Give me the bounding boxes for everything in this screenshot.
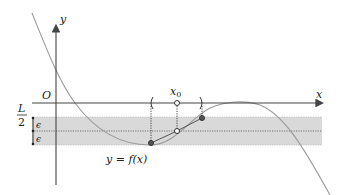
y-axis-label: y bbox=[59, 13, 67, 26]
center-open-point bbox=[175, 129, 180, 134]
x0-axis-open-point bbox=[175, 101, 180, 106]
x0-label: x0 bbox=[170, 85, 181, 99]
limit-diagram: y x O x0 L 2 ϵ ϵ y = f(x) bbox=[0, 0, 340, 195]
L-numerator: L bbox=[17, 102, 25, 115]
function-curve bbox=[32, 13, 330, 195]
L-denominator: 2 bbox=[18, 116, 25, 129]
right-filled-point bbox=[200, 116, 205, 121]
epsilon-tick-mid bbox=[32, 130, 35, 133]
epsilon-tick-bottom bbox=[32, 143, 35, 146]
origin-label: O bbox=[42, 89, 51, 102]
epsilon-bottom-label: ϵ bbox=[36, 134, 41, 144]
epsilon-top-label: ϵ bbox=[36, 120, 41, 130]
epsilon-tick-top bbox=[32, 117, 35, 120]
curve-label: y = f(x) bbox=[105, 153, 147, 166]
x-axis-label: x bbox=[316, 88, 323, 101]
left-filled-point bbox=[149, 141, 154, 146]
